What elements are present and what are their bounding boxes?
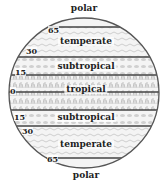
latitude-label-30-south: 30 xyxy=(22,127,33,135)
latitude-label-65-south: 65 xyxy=(47,155,58,163)
zone-label-subtropical-south: subtropical xyxy=(55,113,116,122)
zone-label-temperate-south: temperate xyxy=(58,140,114,149)
latitude-label-15-south: 15 xyxy=(14,113,25,121)
zone-label-polar-north: polar xyxy=(71,4,97,13)
zone-label-temperate-north: temperate xyxy=(58,37,114,46)
zone-label-subtropical-north: subtropical xyxy=(55,62,116,71)
zone-label-tropical: tropical xyxy=(64,85,107,94)
latitude-label-15-north: 15 xyxy=(15,68,26,76)
latitude-label-65-north: 65 xyxy=(48,26,59,34)
latitude-label-equator: 0 xyxy=(10,87,16,95)
zone-label-polar-south: polar xyxy=(73,171,99,180)
latitude-label-30-north: 30 xyxy=(26,47,37,55)
climate-zone-diagram: polar temperate subtropical tropical sub… xyxy=(0,0,168,183)
